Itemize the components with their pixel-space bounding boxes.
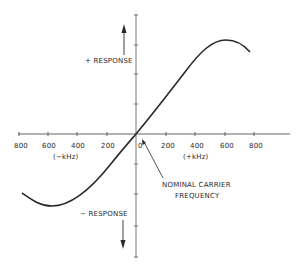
carrier-label-line2: FREQUENCY <box>175 192 220 200</box>
down-arrow-icon <box>121 240 126 249</box>
negative-response-label: − RESPONSE <box>80 210 128 218</box>
negative-khz-label: (−kHz) <box>53 153 79 161</box>
x-tick-label-neg-400: 400 <box>71 142 85 150</box>
carrier-label-line1: NOMINAL CARRIER <box>162 181 231 189</box>
x-tick-label-pos-200: 200 <box>161 142 175 150</box>
up-arrow-icon <box>122 24 127 33</box>
positive-response-label: + RESPONSE <box>85 57 133 65</box>
x-tick-label-neg-200: 200 <box>101 142 115 150</box>
response-diagram: 800 600 400 200 0 200 400 600 800 (−kHz)… <box>0 0 296 271</box>
x-tick-label-pos-400: 400 <box>190 142 204 150</box>
x-tick-label-pos-600: 600 <box>220 142 234 150</box>
x-tick-label-pos-800: 800 <box>249 142 263 150</box>
x-tick-label-neg-800: 800 <box>14 142 28 150</box>
x-tick-label-neg-600: 600 <box>42 142 56 150</box>
x-tick-label-zero: 0 <box>138 142 143 150</box>
positive-khz-label: (+kHz) <box>183 153 209 161</box>
